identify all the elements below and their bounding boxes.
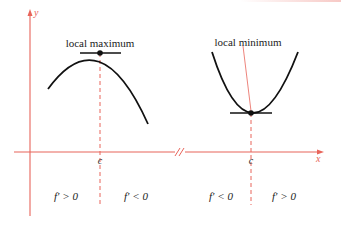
local-maximum-panel: local maximum c f′ > 0 f′ < 0 [48, 37, 148, 205]
x-axis-label: x [315, 153, 321, 164]
y-axis-arrow-icon [28, 9, 33, 16]
critical-point-diagram: y x local maximum c f′ > 0 f′ < 0 local … [0, 0, 341, 226]
axis-break-icon [175, 147, 185, 157]
min-right-region-label: f′ > 0 [272, 190, 296, 202]
local-maximum-label: local maximum [66, 37, 135, 49]
c-label-max: c [98, 155, 103, 166]
x-axis: x [14, 147, 324, 164]
min-left-region-label: f′ < 0 [209, 190, 233, 202]
min-label-pointer [243, 46, 251, 111]
c-label-min: c [249, 155, 254, 166]
y-axis: y [28, 7, 40, 216]
max-right-region-label: f′ < 0 [124, 190, 148, 202]
local-minimum-panel: local minimum c f′ < 0 f′ > 0 [209, 36, 298, 205]
max-left-region-label: f′ > 0 [54, 190, 78, 202]
min-point-icon [248, 110, 254, 116]
max-curve [48, 60, 148, 124]
local-minimum-label: local minimum [215, 36, 282, 48]
max-point-icon [97, 50, 103, 56]
y-axis-label: y [33, 7, 39, 18]
min-curve [212, 52, 298, 113]
